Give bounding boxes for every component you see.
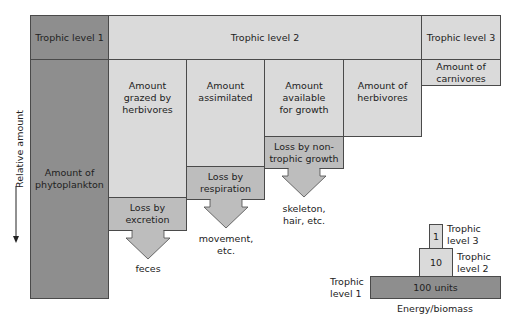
nontrophic-arrow-icon bbox=[280, 168, 328, 198]
loss-nontrophic-label: Loss by non-trophic growth bbox=[269, 141, 339, 165]
pyramid-level-2-label: Trophic level 2 bbox=[457, 251, 493, 275]
carnivores-box: Amount of carnivores bbox=[421, 59, 501, 86]
axis-down-arrow-icon bbox=[11, 186, 21, 244]
available-box: Amount available for growth bbox=[264, 59, 344, 137]
carnivores-label: Amount of carnivores bbox=[426, 61, 496, 85]
grazed-box: Amount grazed by herbivores bbox=[108, 59, 187, 198]
assimilated-label: Amount assimilated bbox=[196, 80, 256, 104]
grazed-label: Amount grazed by herbivores bbox=[118, 80, 178, 116]
loss-excretion-label: Loss by excretion bbox=[123, 202, 173, 226]
header-trophic-level-3-label: Trophic level 3 bbox=[427, 32, 496, 44]
pyramid-level-2-value: 10 bbox=[430, 257, 442, 269]
excretion-output: feces bbox=[118, 263, 178, 275]
header-trophic-level-3: Trophic level 3 bbox=[421, 15, 501, 60]
phytoplankton-box: Amount of phytoplankton bbox=[30, 59, 109, 299]
pyramid-level-3-value: 1 bbox=[433, 231, 439, 243]
nontrophic-output: skeleton, hair, etc. bbox=[274, 203, 334, 227]
header-trophic-level-2-label: Trophic level 2 bbox=[231, 32, 300, 44]
loss-respiration-box: Loss by respiration bbox=[186, 166, 265, 200]
header-trophic-level-1-label: Trophic level 1 bbox=[35, 32, 104, 44]
respiration-output: movement, etc. bbox=[198, 233, 254, 257]
herbivores-box: Amount of herbivores bbox=[343, 59, 422, 137]
header-trophic-level-2: Trophic level 2 bbox=[108, 15, 422, 60]
pyramid-level-1-value: 100 units bbox=[413, 282, 458, 294]
respiration-arrow-icon bbox=[202, 199, 250, 229]
loss-respiration-label: Loss by respiration bbox=[196, 171, 256, 195]
assimilated-box: Amount assimilated bbox=[186, 59, 265, 167]
header-trophic-level-1: Trophic level 1 bbox=[30, 15, 109, 60]
pyramid-level-2: 10 bbox=[419, 248, 453, 277]
excretion-arrow-icon bbox=[124, 230, 172, 260]
pyramid-caption: Energy/biomass bbox=[385, 303, 485, 315]
pyramid-level-1: 100 units bbox=[370, 276, 501, 299]
pyramid-level-1-label: Trophic level 1 bbox=[330, 276, 368, 300]
phytoplankton-label: Amount of phytoplankton bbox=[35, 167, 105, 191]
axis-label: Relative amount bbox=[14, 109, 26, 189]
loss-nontrophic-box: Loss by non-trophic growth bbox=[264, 136, 344, 169]
loss-excretion-box: Loss by excretion bbox=[108, 197, 187, 231]
pyramid-level-3-label: Trophic level 3 bbox=[447, 223, 483, 247]
herbivores-label: Amount of herbivores bbox=[348, 80, 418, 104]
pyramid-level-3: 1 bbox=[429, 224, 443, 249]
available-label: Amount available for growth bbox=[275, 80, 333, 116]
